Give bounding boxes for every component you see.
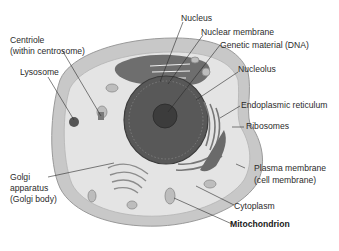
- label-golgi-body: (Golgi body): [10, 194, 57, 205]
- label-centriole-sub: (within centrosome): [10, 46, 85, 57]
- label-cytoplasm: Cytoplasm: [234, 201, 275, 212]
- label-genetic-material: Genetic material (DNA): [220, 40, 309, 51]
- label-mitochondrion: Mitochondrion: [230, 219, 290, 230]
- label-centriole: Centriole: [10, 35, 44, 46]
- label-lysosome: Lysosome: [20, 67, 59, 78]
- label-nucleolus: Nucleolus: [238, 64, 276, 75]
- cell-diagram: Nucleus Nuclear membrane Genetic materia…: [0, 0, 339, 251]
- lysosome-shape: [69, 117, 79, 127]
- label-nucleus: Nucleus: [181, 13, 212, 24]
- label-golgi: Golgi: [10, 172, 30, 183]
- label-nuclear-membrane: Nuclear membrane: [201, 27, 274, 38]
- label-ribosomes: Ribosomes: [246, 121, 289, 132]
- label-golgi-apparatus: apparatus: [10, 183, 48, 194]
- label-endoplasmic-reticulum: Endoplasmic reticulum: [241, 100, 327, 111]
- nucleolus-shape: [153, 104, 177, 128]
- label-plasma-membrane: Plasma membrane: [254, 163, 326, 174]
- label-plasma-membrane-sub: (cell membrane): [254, 175, 316, 186]
